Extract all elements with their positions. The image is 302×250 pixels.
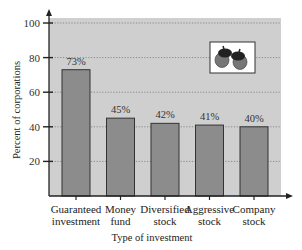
bar-value-label: 40%: [244, 113, 264, 124]
bar: [151, 123, 179, 196]
y-tick-label: 60: [29, 86, 41, 98]
category-label: Aggressive: [185, 203, 235, 215]
category-label: Guaranteed: [51, 203, 102, 215]
x-axis-title: Type of investment: [112, 232, 193, 243]
bar: [240, 127, 268, 196]
bar-value-label: 45%: [111, 104, 131, 115]
category-label: fund: [110, 215, 131, 227]
category-label: investment: [52, 215, 100, 227]
category-label: Company: [233, 203, 276, 215]
y-tick-label: 20: [29, 155, 41, 167]
acorns-icon: [210, 42, 255, 73]
bar: [62, 70, 90, 196]
y-tick-label: 100: [24, 17, 41, 29]
bar-value-label: 73%: [66, 56, 86, 67]
category-label: stock: [242, 215, 266, 227]
bar-value-label: 41%: [200, 111, 220, 122]
y-tick-label: 80: [29, 52, 41, 64]
y-axis-title: Percent of corporations: [11, 61, 22, 159]
bar-value-label: 42%: [155, 109, 175, 120]
category-label: stock: [198, 215, 222, 227]
y-axis-arrow-icon: [46, 9, 52, 16]
bar-chart: 73%Guaranteedinvestment45%Moneyfund42%Di…: [0, 0, 302, 250]
category-label: stock: [153, 215, 177, 227]
bar: [107, 118, 135, 196]
x-axis-arrow-icon: [286, 193, 293, 199]
category-label: Money: [105, 203, 137, 215]
y-tick-label: 40: [29, 121, 41, 133]
bar: [196, 125, 224, 196]
category-label: Diversified: [140, 203, 190, 215]
